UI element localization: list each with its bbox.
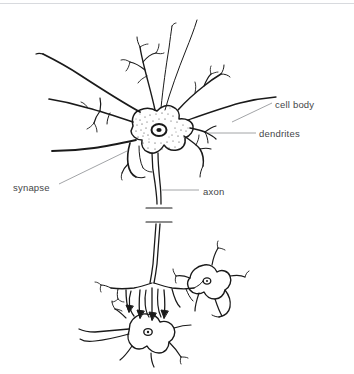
axon-terminal-right-1 xyxy=(194,281,203,288)
target-neuron-right xyxy=(173,241,249,317)
dendrite-lower-left-terminal-b3 xyxy=(139,146,143,168)
dendrite-lower-right-b2 xyxy=(200,166,203,177)
target-left-process-4b xyxy=(181,357,188,358)
dendrite-upper-right-group xyxy=(178,65,230,110)
target-right-process-4a xyxy=(173,269,176,276)
dendrite-right-group xyxy=(190,126,216,143)
dendrite-branch-center-b1 xyxy=(156,44,159,53)
dendrite-branch-center-a1 xyxy=(121,60,130,62)
target-right-process-6 xyxy=(215,299,222,316)
axon-terminal-main-branch xyxy=(111,283,152,289)
target-right-process-2a xyxy=(245,271,249,277)
target-left-process-5 xyxy=(174,325,191,328)
target-right-process-4 xyxy=(176,276,190,278)
dendrite-mid-left-b1b xyxy=(94,123,97,132)
leader-line-cell-body xyxy=(232,103,272,122)
dendrite-branch-center-c xyxy=(137,37,140,47)
target-right-process-5 xyxy=(195,293,199,311)
dendrite-upper-right-b4 xyxy=(195,82,196,93)
dendrite-lower-right-b1 xyxy=(200,148,211,149)
target-left-nucleolus xyxy=(147,331,149,333)
dendrite-upper-left-long-tip xyxy=(36,53,43,54)
terminal-lobe-mid xyxy=(145,290,149,317)
neuron-diagram-figure: cell body dendrites synapse axon xyxy=(0,0,354,374)
dendrite-mid-left-b1 xyxy=(94,111,100,123)
nucleolus xyxy=(156,128,161,132)
axon-shaft-left xyxy=(152,153,157,204)
terminal-lobe-left xyxy=(129,291,134,316)
dendrite-lower-left-terminal-b5 xyxy=(121,173,122,180)
target-left-process-4 xyxy=(169,342,181,357)
target-left-process-4a xyxy=(180,357,181,364)
target-right-process-2 xyxy=(230,275,245,277)
label-cell-body: cell body xyxy=(275,99,314,110)
dendrite-lower-right xyxy=(184,136,203,166)
dendrite-upper-right-b2 xyxy=(221,65,224,74)
dendrite-tall-1 xyxy=(161,26,172,108)
axon-group xyxy=(146,153,172,283)
target-left-process-1 xyxy=(79,329,129,332)
dendrite-lower-left-group xyxy=(52,140,152,180)
dendrite-lower-left-terminal xyxy=(128,143,136,177)
axon-terminal-left-2a xyxy=(112,299,118,302)
bouton-tip-4 xyxy=(161,310,168,318)
dendrite-mid-left-b1a xyxy=(87,123,94,129)
target-right-process-1b xyxy=(218,248,225,250)
axon-terminal-right-2 xyxy=(186,289,193,301)
axon-terminal-left-1b xyxy=(100,285,101,292)
dendrite-mid-left-b2 xyxy=(100,98,101,111)
target-left-process-1b xyxy=(80,334,129,341)
dendrite-branch-center-d xyxy=(138,76,147,83)
dendrite-upper-right-b1b xyxy=(211,72,218,74)
dendrite-lower-left xyxy=(52,140,136,151)
dendrite-upper-left-long-group xyxy=(36,53,140,112)
axon-terminal-left-1a xyxy=(95,282,101,285)
dendrite-tall-1-tip xyxy=(172,23,176,26)
dendrite-upper-left-long xyxy=(43,54,140,112)
dendrite-upper-right-b3 xyxy=(221,74,230,77)
dendrite-lower-left-terminal-b1 xyxy=(122,164,128,173)
dendrite-lower-right-b3 xyxy=(196,135,199,145)
target-right-process-4b xyxy=(175,276,176,283)
target-right-process-3a xyxy=(212,315,219,317)
target-right-nucleolus xyxy=(206,280,208,282)
axon-terminal-left-1 xyxy=(101,285,111,288)
dendrite-mid-left xyxy=(49,99,133,122)
dendrite-lower-left-terminal-b2 xyxy=(136,177,145,178)
dendrite-lower-right-group xyxy=(184,135,211,177)
dendrite-upper-right-b1 xyxy=(204,74,211,86)
dendrite-upper-right xyxy=(178,74,221,110)
dendrite-lower-left-terminal-b4 xyxy=(143,168,152,172)
axon-terminal-left-2b xyxy=(118,299,124,302)
target-left-process-2 xyxy=(120,346,132,360)
dendrite-upper-right-b1a xyxy=(210,66,211,74)
target-right-process-1a xyxy=(217,241,218,248)
dendrite-upper-group xyxy=(121,20,197,110)
dendrite-mid-left-group xyxy=(49,98,133,132)
label-axon: axon xyxy=(203,186,224,197)
target-left-process-3 xyxy=(151,353,154,367)
terminal-lobe-right xyxy=(158,289,161,317)
axon-shaft-right xyxy=(158,153,161,204)
label-synapse: synapse xyxy=(13,182,50,193)
terminal-lobe-far-right xyxy=(172,289,180,307)
label-dendrites: dendrites xyxy=(259,128,300,139)
leader-line-synapse xyxy=(59,151,127,184)
axon-terminal-left-2 xyxy=(117,289,118,299)
dendrite-branch-center-b2 xyxy=(156,53,164,54)
dendrite-far-right-group xyxy=(188,97,276,120)
dendrite-far-right xyxy=(188,97,276,120)
target-right-process-1 xyxy=(212,248,218,265)
target-neuron-left xyxy=(79,301,191,367)
neuron-illustration xyxy=(0,0,354,374)
dendrite-branch-center-b xyxy=(143,53,156,62)
dendrite-right-b1 xyxy=(205,126,216,132)
dendrite-branch-center-c1 xyxy=(140,44,148,47)
dendrite-branch-center-a2 xyxy=(126,62,130,71)
